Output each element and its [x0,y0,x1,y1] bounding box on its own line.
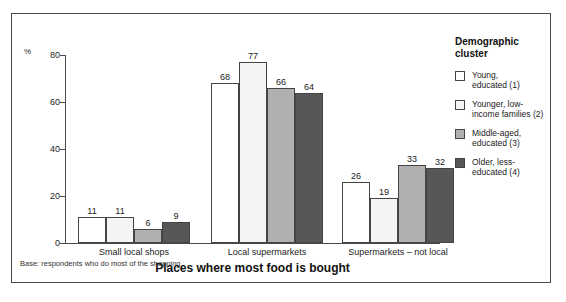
bar[interactable]: 19 [370,198,398,243]
legend-item-label-line-1: Middle-aged, [472,128,521,138]
legend-title-line-1: Demographic [455,36,552,48]
bar[interactable]: 77 [239,62,267,243]
bar-group-bars: 26193332 [342,55,454,243]
legend-item[interactable]: Older, less-educated (4) [455,157,552,177]
bar-value-label: 9 [173,211,178,221]
bar-value-label: 64 [304,82,314,92]
bar-value-label: 11 [115,206,124,216]
legend-swatch-icon [455,158,465,168]
legend-item[interactable]: Middle-aged,educated (3) [455,128,552,148]
chart-figure: % 020406080 111169Small local shops68776… [11,13,551,283]
bar-value-label: 26 [351,171,361,181]
legend-item[interactable]: Young,educated (1) [455,70,552,90]
plot-area: % 020406080 111169Small local shops68776… [12,14,452,284]
legend-item-label: Older, less-educated (4) [472,157,520,177]
y-axis-tick-labels: 020406080 [36,14,60,284]
bar[interactable]: 32 [426,168,454,243]
bar[interactable]: 26 [342,182,370,243]
footnote: Base: respondents who do most of the sho… [20,259,181,268]
bar[interactable]: 6 [134,229,162,243]
y-axis-line [65,55,66,243]
y-axis-tick-label: 80 [38,50,60,60]
bar-value-label: 32 [435,157,445,167]
bar[interactable]: 9 [162,222,190,243]
x-axis-category-label: Local supermarkets [228,247,307,257]
legend-title-line-2: cluster [455,48,552,60]
legend-item-label-line-2: educated (1) [472,80,520,90]
bar[interactable]: 11 [106,217,134,243]
x-axis-category-label: Small local shops [99,247,169,257]
y-axis-tick-mark [60,149,65,150]
bar-group-bars: 111169 [78,55,190,243]
legend-item-label-line-2: educated (4) [472,167,520,177]
y-axis-tick-label: 60 [38,97,60,107]
bar[interactable]: 64 [295,93,323,243]
legend-items: Young,educated (1)Younger, low-income fa… [455,70,552,177]
bar[interactable]: 66 [267,88,295,243]
legend-swatch-icon [455,71,465,81]
bar-value-label: 33 [407,154,417,164]
legend-item-label: Young,educated (1) [472,70,520,90]
bar-value-label: 6 [145,218,150,228]
bar-group: 26193332Supermarkets – not local [342,55,454,243]
bar-value-label: 66 [276,77,286,87]
bar-group-bars: 68776664 [211,55,323,243]
y-axis-tick-mark [60,55,65,56]
y-axis-tick-mark [60,243,65,244]
legend-item[interactable]: Younger, low-income families (2) [455,99,552,119]
legend-item-label: Younger, low-income families (2) [472,99,543,119]
legend-item-label-line-2: educated (3) [472,138,521,148]
legend-item-label-line-1: Younger, low- [472,99,543,109]
y-axis-tick-mark [60,196,65,197]
bar[interactable]: 11 [78,217,106,243]
bar[interactable]: 68 [211,83,239,243]
y-axis-tick-label: 40 [38,144,60,154]
bar-group: 68776664Local supermarkets [211,55,323,243]
y-axis-tick-label: 20 [38,191,60,201]
bar[interactable]: 33 [398,165,426,243]
legend-swatch-icon [455,100,465,110]
y-axis-unit-label: % [24,47,31,56]
legend-title: Demographic cluster [455,36,552,60]
y-axis-tick-label: 0 [38,238,60,248]
legend-item-label-line-1: Older, less- [472,157,520,167]
x-axis-line [65,243,440,244]
legend-item-label: Middle-aged,educated (3) [472,128,521,148]
bar-value-label: 77 [248,51,258,61]
bar-value-label: 68 [220,72,230,82]
bar-value-label: 11 [87,206,96,216]
legend-swatch-icon [455,129,465,139]
legend-item-label-line-1: Young, [472,70,520,80]
y-axis-tick-mark [60,102,65,103]
legend-item-label-line-2: income families (2) [472,109,543,119]
x-axis-category-label: Supermarkets – not local [348,247,448,257]
bar-group: 111169Small local shops [78,55,190,243]
bar-value-label: 19 [379,187,389,197]
legend: Demographic cluster Young,educated (1)Yo… [455,36,552,186]
